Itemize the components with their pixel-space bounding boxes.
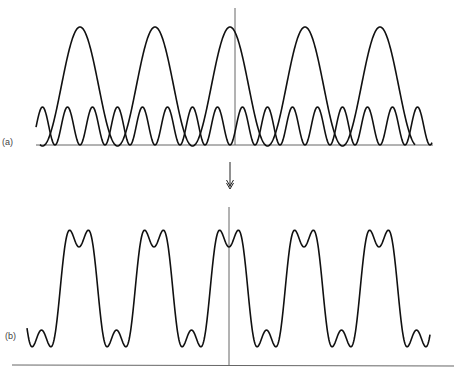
panel-a-fundamental-wave xyxy=(40,27,415,146)
down-arrow-icon xyxy=(227,162,234,189)
fourier-synthesis-diagram xyxy=(0,0,454,373)
panel-a-harmonic-wave xyxy=(36,107,432,145)
panel-a-label: (a) xyxy=(2,137,13,147)
panel-b-label: (b) xyxy=(5,331,16,341)
panel-b-baseline xyxy=(12,365,454,366)
